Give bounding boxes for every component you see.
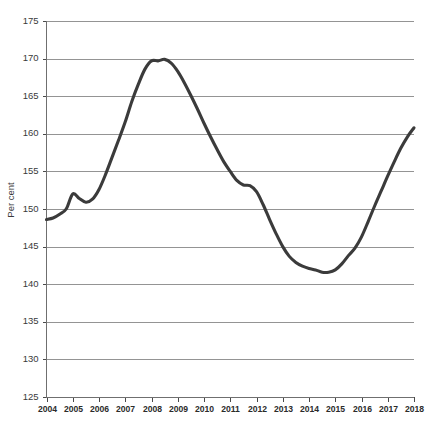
line-chart: 125130135140145150155160165170175 200420… xyxy=(0,0,430,436)
y-tick-label: 170 xyxy=(23,52,39,63)
y-tick-label: 165 xyxy=(23,90,39,101)
x-tick-label: 2005 xyxy=(64,404,83,414)
x-tick-label: 2016 xyxy=(353,404,372,414)
x-tick-label: 2006 xyxy=(90,404,109,414)
y-tick-label: 130 xyxy=(23,353,39,364)
x-tick-label: 2008 xyxy=(143,404,162,414)
y-tick-label: 140 xyxy=(23,278,39,289)
x-tick-label: 2011 xyxy=(221,404,240,414)
x-tick-label: 2007 xyxy=(116,404,135,414)
x-tick-label: 2009 xyxy=(169,404,188,414)
x-tick-label: 2017 xyxy=(379,404,398,414)
chart-container: 125130135140145150155160165170175 200420… xyxy=(0,0,430,436)
data-series-line xyxy=(47,59,415,272)
x-tick-label: 2012 xyxy=(248,404,267,414)
x-tick-label: 2014 xyxy=(300,404,319,414)
y-tick-label: 175 xyxy=(23,15,39,26)
y-tick-label: 125 xyxy=(23,391,39,402)
x-tick-label: 2004 xyxy=(38,404,57,414)
x-tick-label: 2015 xyxy=(326,404,345,414)
y-tick-label: 150 xyxy=(23,203,39,214)
y-tick-label: 155 xyxy=(23,165,39,176)
y-tick-label: 145 xyxy=(23,240,39,251)
y-tick-label: 135 xyxy=(23,315,39,326)
y-axis-title: Per cent xyxy=(5,182,16,218)
y-tick-labels-group: 125130135140145150155160165170175 xyxy=(23,15,39,402)
x-tick-label: 2018 xyxy=(405,404,424,414)
gridlines-group xyxy=(43,22,415,398)
x-tick-labels-group: 2004200520062007200820092010201120122013… xyxy=(38,404,424,414)
y-tick-label: 160 xyxy=(23,127,39,138)
x-tick-label: 2010 xyxy=(195,404,214,414)
x-tick-label: 2013 xyxy=(274,404,293,414)
